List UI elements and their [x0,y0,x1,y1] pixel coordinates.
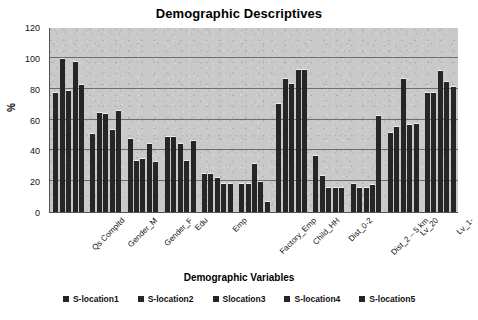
x-tick-label: Lv_1- [455,216,476,237]
bar[interactable] [184,160,189,212]
bar[interactable] [90,133,95,212]
y-axis-tick-labels: 020406080100120 [0,28,45,213]
bar[interactable] [357,187,362,212]
x-tick-label: Gender_F [163,216,195,248]
bar[interactable] [414,123,419,212]
bar[interactable] [407,124,412,212]
bar[interactable] [191,140,196,212]
bar[interactable] [438,70,443,212]
bar-group [87,28,124,212]
bar[interactable] [110,129,115,212]
bar[interactable] [73,61,78,212]
y-tick-label: 120 [25,24,40,33]
bar-group [273,28,310,212]
bar[interactable] [178,143,183,212]
legend-label: S-location2 [148,294,194,304]
legend-item[interactable]: S-location2 [138,294,194,304]
bar[interactable] [296,69,301,212]
legend-item[interactable]: S-location5 [359,294,415,304]
bar[interactable] [97,112,102,212]
y-tick-label: 100 [25,54,40,63]
bar[interactable] [320,175,325,212]
bar-group [162,28,199,212]
bar[interactable] [364,187,369,212]
bar-group [124,28,161,212]
bar[interactable] [128,138,133,212]
legend-label: S-location5 [369,294,415,304]
legend-swatch-icon [138,296,144,302]
bar[interactable] [289,83,294,213]
bar[interactable] [276,103,281,212]
y-tick-label: 40 [30,147,40,156]
bar[interactable] [339,187,344,212]
bar[interactable] [313,155,318,212]
bar[interactable] [171,136,176,212]
x-tick-label: Factory_Emp [277,216,317,256]
bar[interactable] [283,78,288,212]
bar[interactable] [221,183,226,212]
bar[interactable] [228,183,233,212]
bar[interactable] [60,58,65,212]
bar[interactable] [103,113,108,212]
legend-label: Slocation3 [223,294,266,304]
x-tick-label: Qs Compltd [90,216,126,252]
y-tick-label: 60 [30,116,40,125]
bar[interactable] [252,163,257,212]
legend-swatch-icon [284,296,290,302]
bar[interactable] [425,92,430,212]
chart-figure: Demographic Descriptives % 0204060801001… [0,0,478,320]
x-tick-label: Emp [231,216,249,234]
chart-legend: S-location1S-location2Slocation3S-locati… [0,294,478,304]
x-axis-tick-labels: Qs CompltdGender_MGender_FEduEmpFactory_… [49,214,458,272]
legend-item[interactable]: Slocation3 [213,294,266,304]
y-tick-label: 80 [30,85,40,94]
bar[interactable] [239,183,244,212]
bar[interactable] [153,161,158,212]
bar[interactable] [116,110,121,212]
bar[interactable] [202,173,207,212]
bar[interactable] [215,177,220,212]
bars-layer [50,28,458,212]
bar[interactable] [370,184,375,212]
bar[interactable] [451,86,456,212]
x-axis-title: Demographic Variables [0,272,478,283]
bar[interactable] [265,201,270,212]
y-tick-label: 0 [35,209,40,218]
bar[interactable] [147,143,152,212]
legend-swatch-icon [213,296,219,302]
bar[interactable] [66,90,71,212]
bar[interactable] [208,173,213,212]
bar[interactable] [140,158,145,212]
bar-group [236,28,273,212]
bar[interactable] [79,84,84,212]
x-tick-label: Dist_0-2 [347,216,374,243]
plot-area [49,28,458,213]
bar[interactable] [376,115,381,212]
x-tick-label: Edu [193,216,209,232]
bar[interactable] [246,183,251,212]
bar-group [422,28,458,212]
legend-label: S-location4 [294,294,340,304]
bar[interactable] [258,181,263,212]
bar[interactable] [444,81,449,212]
bar-group [310,28,347,212]
bar-group [385,28,422,212]
bar[interactable] [326,187,331,212]
bar[interactable] [134,160,139,212]
bar-group [347,28,384,212]
legend-item[interactable]: S-location4 [284,294,340,304]
bar[interactable] [394,126,399,212]
legend-item[interactable]: S-location1 [63,294,119,304]
bar[interactable] [351,183,356,212]
x-tick-label: Gender_M [126,216,159,249]
bar[interactable] [388,132,393,212]
bar[interactable] [165,136,170,212]
bar[interactable] [401,78,406,212]
bar[interactable] [302,69,307,212]
bar[interactable] [431,92,436,212]
legend-label: S-location1 [73,294,119,304]
y-tick-label: 20 [30,178,40,187]
legend-swatch-icon [359,296,365,302]
bar[interactable] [53,92,58,212]
bar[interactable] [333,187,338,212]
